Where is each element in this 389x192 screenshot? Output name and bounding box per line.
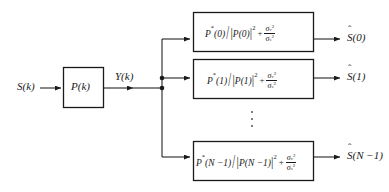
output-label-n: S(N −1) bbox=[347, 150, 383, 161]
formula-numerator-1: P*(1) bbox=[207, 75, 227, 87]
formula-denominator-n: |P(N −1)|2 bbox=[237, 156, 277, 169]
formula-numerator-n: P*(N −1) bbox=[196, 157, 231, 169]
division-slash-1: / bbox=[228, 70, 231, 89]
output-arg-1: (1) bbox=[353, 70, 366, 82]
division-slash-n: / bbox=[232, 152, 235, 171]
output-arg-0: (0) bbox=[353, 31, 366, 43]
input-signal-label: S(k) bbox=[17, 81, 35, 92]
hat-accent-0: S bbox=[347, 32, 353, 43]
block-diagram-canvas: S(k) P(k) Y(k) P*(0) / |P(0)|2 + σv2 σs2… bbox=[0, 0, 389, 192]
formula-denominator-0: |P(0)|2 bbox=[230, 27, 255, 40]
plus-sign-0: + bbox=[257, 29, 262, 38]
plus-sign-n: + bbox=[279, 158, 284, 167]
sigma-ratio-1: σv2 σs2 bbox=[266, 72, 277, 90]
division-slash-0: / bbox=[226, 23, 229, 42]
system-block-label: P(k) bbox=[71, 81, 90, 92]
formula-numerator-0: P*(0) bbox=[205, 28, 225, 40]
sigma-ratio-n: σv2 σs2 bbox=[286, 154, 297, 172]
plus-sign-1: + bbox=[259, 76, 264, 85]
junction-dot-2 bbox=[160, 86, 165, 91]
hat-accent-n: S bbox=[347, 150, 353, 161]
output-arg-n: (N −1) bbox=[353, 149, 383, 161]
output-label-1: S(1) bbox=[347, 71, 365, 82]
junction-dot-1 bbox=[160, 76, 165, 81]
hat-accent-1: S bbox=[347, 71, 353, 82]
filter-formula-0: P*(0) / |P(0)|2 + σv2 σs2 bbox=[205, 24, 275, 43]
formula-denominator-1: |P(1)|2 bbox=[232, 74, 257, 87]
diagram-wires bbox=[0, 0, 389, 192]
filter-formula-n: P*(N −1) / |P(N −1)|2 + σv2 σs2 bbox=[196, 153, 296, 172]
output-label-0: S(0) bbox=[347, 32, 365, 43]
intermediate-signal-label: Y(k) bbox=[115, 71, 133, 82]
filter-formula-1: P*(1) / |P(1)|2 + σv2 σs2 bbox=[207, 71, 277, 90]
vertical-ellipsis-icon bbox=[251, 111, 253, 127]
sigma-ratio-0: σv2 σs2 bbox=[264, 25, 275, 43]
